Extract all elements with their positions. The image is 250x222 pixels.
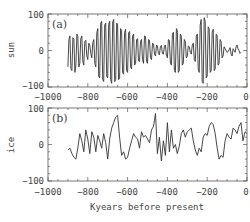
panel-a-ylabel: sun xyxy=(6,42,16,58)
panel-a-xtick-0: 0 xyxy=(243,92,248,102)
panel-a-ytick-100: 100 xyxy=(28,10,44,20)
panel-a-xtick-minus400: −400 xyxy=(156,92,178,102)
sun-series-line xyxy=(68,18,241,84)
panel-b-label: (b) xyxy=(52,112,68,125)
figure: (a) sun 100 0 −100 −1000 −800 −600 −400 … xyxy=(0,0,250,222)
panel-b-ytick-minus100: −100 xyxy=(22,176,44,186)
panel-b-xtick-minus1000: −1000 xyxy=(34,187,61,197)
panel-b-xtick-minus600: −600 xyxy=(116,187,138,197)
panel-a-xtick-minus800: −800 xyxy=(77,92,99,102)
panel-b-xtick-minus400: −400 xyxy=(156,187,178,197)
panel-a: (a) sun 100 0 −100 −1000 −800 −600 −400 … xyxy=(6,10,249,102)
panel-b-ytick-0: 0 xyxy=(39,140,44,150)
panel-a-ytick-minus100: −100 xyxy=(22,81,44,91)
panel-b-frame xyxy=(48,108,247,181)
panel-b-xtick-minus800: −800 xyxy=(77,187,99,197)
panel-a-ytick-0: 0 xyxy=(39,46,44,56)
panel-b: (b) ice 100 0 −100 −1000 −800 −600 −400 … xyxy=(6,104,249,212)
ice-series-line xyxy=(68,114,247,161)
panel-a-xtick-minus200: −200 xyxy=(196,92,218,102)
panel-a-xtick-minus1000: −1000 xyxy=(34,92,61,102)
panel-b-xtick-minus200: −200 xyxy=(196,187,218,197)
panel-b-ticks xyxy=(48,108,247,181)
panel-a-xtick-minus600: −600 xyxy=(116,92,138,102)
panel-b-ytick-100: 100 xyxy=(28,104,44,114)
x-axis-label: Kyears before present xyxy=(90,202,204,212)
panel-a-label: (a) xyxy=(52,18,67,31)
panel-b-xtick-0: 0 xyxy=(243,187,248,197)
panel-b-ylabel: ice xyxy=(6,137,16,153)
